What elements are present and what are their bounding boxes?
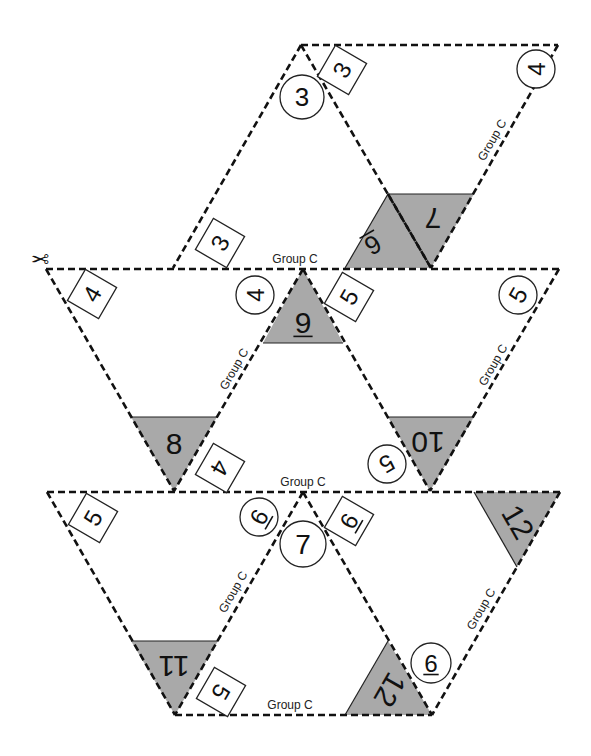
circle-marker-c-3: 3 xyxy=(280,75,324,119)
number-text: 4 xyxy=(523,62,550,75)
circle-marker-c-7: 7 xyxy=(280,521,326,567)
circle-marker-c-5-row2-bottom: 5 xyxy=(368,445,406,483)
scissor-icon: ✂ xyxy=(31,246,49,271)
box-marker-b-5-row3-bottom: 5 xyxy=(196,667,245,716)
circle-marker-c-4-top: 4 xyxy=(517,50,555,88)
number-c-4-top: 4 xyxy=(523,62,550,75)
circle-marker-c-9-row3: 9 xyxy=(411,643,451,683)
group-label: Group C xyxy=(280,475,326,489)
number-c-9-row3: 9 xyxy=(423,650,438,677)
box-marker-b-3-lower: 3 xyxy=(195,218,244,267)
number-text: 7 xyxy=(295,529,311,560)
circle-markers: 34455679 xyxy=(236,50,555,683)
circle-marker-c-4-row2: 4 xyxy=(236,276,274,314)
number-n-11: 11 xyxy=(158,650,189,683)
number-n-9: 9 xyxy=(293,306,312,339)
box-marker-b-6-row3: 6 xyxy=(324,496,373,545)
group-label: Group C xyxy=(475,117,510,164)
box-marker-b-4-row2-bottom: 4 xyxy=(195,443,244,492)
number-text: 11 xyxy=(158,650,189,683)
box-marker-b-5-row2: 5 xyxy=(324,272,373,321)
group-label: Group C xyxy=(476,342,511,389)
number-text: 3 xyxy=(295,82,309,112)
group-label: Group C xyxy=(272,252,318,266)
number-text: 8 xyxy=(166,427,183,460)
number-n-7: 7 xyxy=(425,202,442,235)
number-text: 4 xyxy=(242,288,269,301)
number-n-10: 10 xyxy=(411,426,444,459)
box-marker-b-4-row2-left: 4 xyxy=(67,269,116,318)
number-text: 7 xyxy=(425,202,442,235)
number-c-3: 3 xyxy=(295,82,309,112)
number-text: 9 xyxy=(295,306,312,339)
circle-marker-c-5-row2-right: 5 xyxy=(499,276,537,314)
number-c-7: 7 xyxy=(295,529,311,560)
box-marker-b-5-row3-left: 5 xyxy=(68,493,117,542)
number-n-8: 8 xyxy=(166,427,183,460)
flexagon-net: Group CGroup CGroup CGroup CGroup CGroup… xyxy=(0,0,591,756)
number-text: 10 xyxy=(411,426,444,459)
group-label: Group C xyxy=(267,698,313,712)
circle-marker-c-6-row3: 6 xyxy=(240,498,278,536)
number-c-4-row2: 4 xyxy=(242,288,269,301)
number-text: 9 xyxy=(424,650,437,677)
scissor-icon: ✂ xyxy=(31,246,49,271)
